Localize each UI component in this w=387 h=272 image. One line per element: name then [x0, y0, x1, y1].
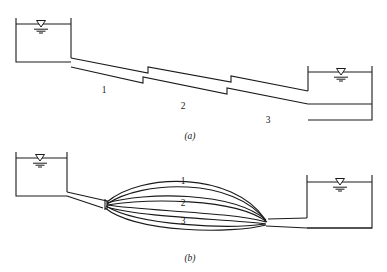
water-hatch-lines: [33, 163, 47, 167]
water-surface-level-symbol: [333, 179, 347, 192]
water-hatch-lines: [334, 77, 348, 81]
parallel-pipe-3-top-wall: [107, 205, 266, 222]
inlet-trunk-bottom-wall: [67, 196, 103, 208]
water-surface-level-symbol: [33, 155, 47, 168]
pipe-label-2: 2: [181, 198, 186, 208]
pipe-system-figure: 1 2 3 (a): [0, 0, 387, 272]
parallel-pipe-outer-lower-top-wall: [106, 206, 265, 226]
reservoir-left-wall: [16, 18, 71, 62]
water-hatch-lines: [34, 29, 48, 33]
pipe-label-2: 2: [181, 101, 186, 111]
water-surface-level-symbol: [334, 69, 348, 82]
water-hatch-lines: [333, 187, 347, 191]
inlet-trunk-top-wall: [67, 192, 107, 201]
pipe-label-1: 1: [102, 85, 107, 95]
panel-b-lower-reservoir: [307, 175, 372, 228]
panel-a: 1 2 3 (a): [16, 18, 372, 142]
water-surface-level-symbol: [34, 21, 48, 34]
pipe-label-3: 3: [266, 115, 271, 125]
pipe-series-bottom-wall: [71, 67, 308, 104]
pipe-label-1: 1: [181, 176, 186, 186]
panel-b-upper-reservoir: [16, 152, 67, 196]
pipe-label-3: 3: [181, 216, 186, 226]
panel-caption-a: (a): [184, 131, 195, 142]
panel-caption-b: (b): [184, 253, 195, 264]
panel-b: 1 2 3 (b): [16, 152, 372, 264]
panel-a-upper-reservoir: [16, 18, 71, 62]
panel-a-lower-reservoir: [308, 66, 372, 120]
outlet-trunk-bottom-wall: [266, 226, 307, 228]
figure-root: 1 2 3 (a): [0, 0, 387, 272]
outlet-trunk-top-wall: [268, 218, 307, 219]
